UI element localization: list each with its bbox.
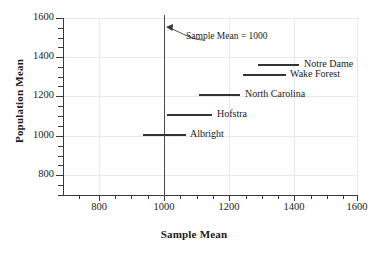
gridline-horizontal-800 [63,175,357,176]
y-tick-minor [58,47,63,48]
y-tick-label: 1600 [12,11,54,22]
y-axis-line [63,18,64,195]
y-tick-1400 [56,57,63,58]
y-tick-minor [58,165,63,166]
ci-row-hofstra: Hofstra [0,110,388,120]
x-tick-minor [246,195,247,199]
x-tick-label: 1400 [271,201,317,212]
x-axis-title: Sample Mean [0,228,388,240]
ci-label: North Carolina [245,88,305,99]
annotation-label: Sample Mean = 1000 [186,31,268,41]
x-tick-label: 800 [76,201,122,212]
ci-label: Wake Forest [290,68,340,79]
ci-segment [258,64,299,66]
ci-segment [199,94,240,96]
ci-row-north-carolina: North Carolina [0,90,388,100]
x-tick-label: 1600 [334,201,380,212]
x-tick-minor [79,195,80,199]
x-tick-minor [327,195,328,199]
y-tick-minor [58,146,63,147]
gridline-horizontal-1600 [63,18,357,19]
ci-label: Hofstra [217,108,247,119]
x-axis-line [63,195,358,196]
ci-segment [167,114,212,116]
x-tick-minor [278,195,279,199]
x-tick-minor [180,195,181,199]
gridline-vertical-1400 [294,18,295,195]
gridline-vertical-1600 [357,18,358,195]
y-tick-minor [58,38,63,39]
x-tick-label: 1000 [141,201,187,212]
y-tick-1600 [56,18,63,19]
y-tick-minor [58,126,63,127]
y-tick-minor [58,86,63,87]
gridline-vertical-1200 [229,18,230,195]
x-tick-minor [197,195,198,199]
x-tick-minor [311,195,312,199]
y-tick-minor [58,195,63,196]
ci-row-albright: Albright [0,130,388,140]
x-tick-minor [343,195,344,199]
plot-area [63,18,357,195]
ci-row-wake-forest: Wake Forest [0,70,388,80]
y-tick-minor [58,28,63,29]
y-tick-label: 800 [12,168,54,179]
x-tick-minor [213,195,214,199]
y-tick-800 [56,175,63,176]
x-tick-minor [262,195,263,199]
x-tick-label: 1200 [206,201,252,212]
ci-segment [143,134,186,136]
x-tick-minor [148,195,149,199]
y-tick-minor [58,156,63,157]
confidence-interval-chart: 800 1000 1200 1400 1600 1600 1400 1200 1… [0,0,388,254]
x-tick-minor [115,195,116,199]
y-tick-minor [58,185,63,186]
gridline-vertical-800 [99,18,100,195]
y-axis-title: Population Mean [13,36,25,166]
y-tick-minor [58,106,63,107]
x-tick-minor [131,195,132,199]
ci-label: Albright [190,128,224,139]
ci-segment [243,74,286,76]
